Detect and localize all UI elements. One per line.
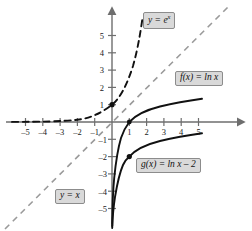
- point-f-1-0: [127, 120, 132, 125]
- y-tick-label: 5: [100, 31, 104, 41]
- label-exponential-exponent: x: [168, 13, 171, 20]
- point-g-1-neg2: [127, 154, 132, 159]
- x-axis: [6, 118, 238, 126]
- point-exp-0-1: [109, 102, 114, 107]
- label-g-text: g(x) = ln x – 2: [141, 159, 196, 169]
- x-tick-label: –5: [20, 127, 30, 137]
- x-tick-label: –2: [72, 127, 82, 137]
- label-exponential: y = ex: [143, 12, 175, 29]
- x-tick-label: 5: [196, 127, 200, 137]
- y-tick-label: 3: [100, 65, 104, 75]
- x-tick-label: 3: [162, 127, 166, 137]
- y-tick-label: –3: [98, 169, 108, 179]
- plot-svg: –5 –4 –3 –2 –1 1 2 3 4 5 5 4 3 2 1 –1 –2…: [0, 0, 252, 231]
- label-g: g(x) = ln x – 2: [136, 158, 201, 173]
- x-tick-label: –4: [38, 127, 48, 137]
- curve-exponential: [12, 18, 143, 122]
- x-tick-labels: –5 –4 –3 –2 –1 1 2 3 4 5: [20, 127, 200, 137]
- label-f: f(x) = ln x: [175, 71, 223, 86]
- label-f-text: f(x) = ln x: [180, 72, 218, 82]
- x-tick-label: 1: [127, 127, 131, 137]
- label-exponential-text: y = e: [148, 15, 168, 25]
- y-tick-label: 4: [100, 48, 105, 58]
- x-tick-label: 2: [144, 127, 148, 137]
- figure-graph-log-exp: –5 –4 –3 –2 –1 1 2 3 4 5 5 4 3 2 1 –1 –2…: [0, 0, 252, 231]
- y-tick-label: 2: [100, 83, 104, 93]
- y-tick-label: –4: [98, 187, 108, 197]
- label-identity-text: y = x: [60, 190, 80, 200]
- y-tick-label: –2: [98, 152, 108, 162]
- y-tick-label: 1: [100, 100, 104, 110]
- x-tick-label: –3: [55, 127, 65, 137]
- y-tick-label: –5: [98, 204, 108, 214]
- label-identity: y = x: [55, 189, 85, 204]
- curve-g-lnx-minus-2: [112, 133, 202, 228]
- curve-identity: [5, 7, 228, 229]
